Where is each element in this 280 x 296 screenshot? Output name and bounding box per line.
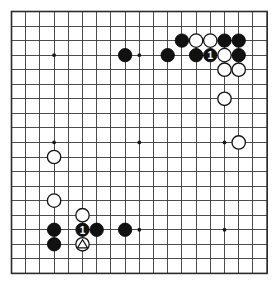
star-point (52, 141, 56, 145)
black-stone[interactable] (118, 48, 131, 61)
black-stone[interactable] (218, 34, 231, 47)
stone-black[interactable]: 1 (76, 223, 89, 236)
stone-black[interactable] (118, 48, 131, 61)
black-stone[interactable] (161, 48, 174, 61)
stone-white[interactable] (218, 48, 231, 61)
stone-white[interactable] (232, 136, 245, 149)
stone-black[interactable] (90, 223, 103, 236)
black-stone[interactable] (118, 223, 131, 236)
black-stone[interactable] (90, 223, 103, 236)
white-stone[interactable] (76, 209, 89, 222)
stone-white[interactable] (47, 194, 60, 207)
white-stone[interactable] (189, 34, 202, 47)
black-stone[interactable] (175, 34, 188, 47)
white-stone[interactable] (232, 136, 245, 149)
stone-white[interactable] (204, 34, 217, 47)
white-stone[interactable] (47, 194, 60, 207)
star-point (223, 228, 227, 232)
white-stone[interactable] (204, 34, 217, 47)
white-stone[interactable] (218, 48, 231, 61)
stone-black[interactable] (189, 48, 202, 61)
stone-black[interactable] (161, 48, 174, 61)
stone-black[interactable] (232, 48, 245, 61)
stone-black[interactable] (47, 238, 60, 251)
white-stone[interactable] (218, 63, 231, 76)
black-stone[interactable] (47, 223, 60, 236)
move-number-label: 1 (208, 50, 214, 61)
stone-black[interactable] (47, 223, 60, 236)
stone-black[interactable] (175, 34, 188, 47)
black-stone[interactable] (189, 48, 202, 61)
stone-white[interactable] (218, 92, 231, 105)
go-board-canvas[interactable]: 11 (0, 0, 280, 296)
black-stone[interactable] (232, 48, 245, 61)
white-stone[interactable] (47, 150, 60, 163)
star-point (52, 53, 56, 57)
stone-white[interactable] (218, 63, 231, 76)
stone-white[interactable] (47, 150, 60, 163)
star-point (137, 53, 141, 57)
star-point (137, 228, 141, 232)
stone-black[interactable] (218, 34, 231, 47)
black-stone[interactable] (47, 238, 60, 251)
stone-black[interactable] (118, 223, 131, 236)
stone-black[interactable]: 1 (204, 48, 217, 61)
black-stone[interactable] (232, 34, 245, 47)
stone-white[interactable] (76, 209, 89, 222)
white-stone[interactable] (218, 92, 231, 105)
stone-white[interactable] (76, 238, 89, 251)
stone-white[interactable] (189, 34, 202, 47)
move-number-label: 1 (80, 225, 86, 236)
star-point (137, 141, 141, 145)
white-stone[interactable] (232, 63, 245, 76)
stone-white[interactable] (232, 63, 245, 76)
go-board-diagram: 11 (0, 0, 280, 296)
stone-black[interactable] (232, 34, 245, 47)
star-point (223, 141, 227, 145)
